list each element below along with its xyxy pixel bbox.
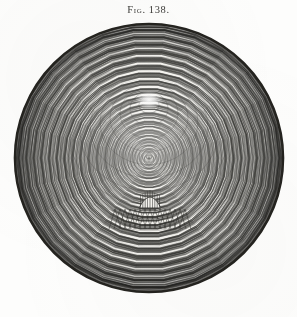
disc-rim-shading xyxy=(15,24,283,292)
harmonograph-figure xyxy=(0,0,297,317)
engraving-plate: Fig. 138. xyxy=(0,0,297,317)
figure-container xyxy=(0,0,297,317)
